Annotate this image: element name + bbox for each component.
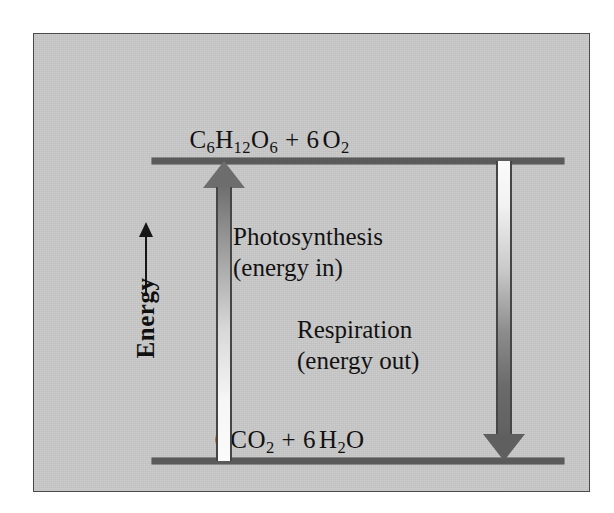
respiration-name: Respiration	[297, 315, 419, 346]
energy-axis-label: Energy	[132, 250, 160, 386]
energy-diagram: C6H12O6+6O2 6CO2+6H2O Photosynthesis (en…	[0, 0, 614, 513]
formula-plus-sign: +	[275, 426, 304, 453]
respiration-label: Respiration (energy out)	[297, 315, 419, 376]
formula-plus-sign: +	[278, 126, 307, 153]
formula-top-level: C6H12O6+6O2	[34, 126, 589, 158]
formula-oxygen: 6O2	[307, 126, 350, 153]
arrow-head	[483, 434, 525, 461]
energy-axis: Energy	[124, 220, 168, 406]
arrow-shaft	[216, 187, 232, 461]
photosynthesis-up-arrow-icon	[203, 161, 245, 461]
arrow-shaft	[496, 161, 512, 435]
photosynthesis-name: Photosynthesis	[233, 222, 383, 253]
respiration-down-arrow-icon	[483, 161, 525, 461]
formula-water: 6H2O	[303, 426, 365, 453]
formula-glucose: C6H12O6	[189, 126, 278, 153]
respiration-energy-note: (energy out)	[297, 346, 419, 377]
diagram-panel: C6H12O6+6O2 6CO2+6H2O Photosynthesis (en…	[33, 33, 590, 492]
photosynthesis-energy-note: (energy in)	[233, 253, 383, 284]
arrow-head	[203, 161, 245, 188]
photosynthesis-label: Photosynthesis (energy in)	[233, 222, 383, 283]
